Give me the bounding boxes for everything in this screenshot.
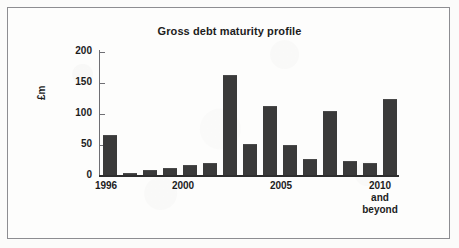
y-tick-label-50: 50 (58, 139, 92, 149)
y-tick-label-200: 200 (58, 46, 92, 56)
bar (223, 75, 237, 175)
bar (343, 161, 357, 175)
y-tick-label-0: 0 (58, 170, 92, 180)
x-tick-label-2010-and-beyond: 2010 and beyond (357, 180, 403, 216)
bar (243, 144, 257, 175)
bar (323, 111, 337, 175)
bar (303, 159, 317, 175)
y-tick-label-150: 150 (58, 77, 92, 87)
bar (163, 168, 177, 175)
chart-screenshot: Gross debt maturity profile 200 150 100 … (0, 0, 459, 248)
bar (263, 106, 277, 175)
y-axis-title: £m (36, 86, 47, 100)
x-tick-label-2000: 2000 (160, 180, 206, 192)
bar (143, 170, 157, 175)
plot-area (100, 52, 400, 175)
bar (123, 173, 137, 175)
y-tick-label-100: 100 (58, 108, 92, 118)
x-axis-line (99, 175, 399, 177)
chart-title: Gross debt maturity profile (0, 25, 459, 37)
bar (203, 163, 217, 175)
x-tick-label-1996: 1996 (83, 180, 129, 192)
x-tick-label-2005: 2005 (258, 180, 304, 192)
bar (283, 145, 297, 175)
bar (183, 165, 197, 175)
bar (103, 135, 117, 175)
bar (363, 163, 377, 175)
bar (383, 99, 397, 175)
